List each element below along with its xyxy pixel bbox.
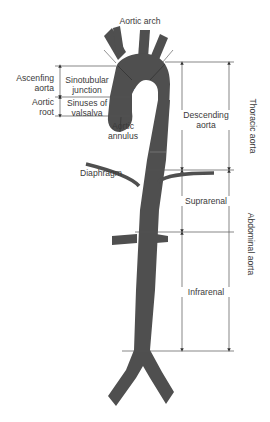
- label-sinotubular-junction: Sinotubular junction: [62, 75, 112, 95]
- label-abdominal-aorta: Abdominal aorta: [246, 212, 256, 276]
- label-descending-aorta: Descending aorta: [180, 110, 232, 130]
- label-root-line2: root: [0, 107, 54, 117]
- aorta-diagram: [0, 0, 270, 422]
- label-sinuses-line1: Sinuses of: [62, 98, 112, 108]
- label-ascending-line1: Ascenfing: [0, 73, 54, 83]
- label-ascending-aorta: Ascenfing aorta: [0, 73, 54, 93]
- renal-artery-right: [156, 234, 168, 243]
- label-aortic-annulus: Aortic annulus: [98, 121, 148, 141]
- label-sinotubular-line2: junction: [62, 85, 112, 95]
- label-thoracic-aorta: Thoracic aorta: [248, 96, 258, 156]
- label-diaphragm: Diaphragm: [80, 168, 122, 178]
- label-aortic-arch: Aortic arch: [110, 16, 170, 26]
- label-annulus-line1: Aortic: [98, 121, 148, 131]
- iliac-bifurcation: [108, 350, 174, 406]
- renal-artery-left: [112, 234, 137, 245]
- label-suprarenal: Suprarenal: [180, 196, 232, 206]
- label-sinuses-line2: valsalva: [62, 108, 112, 118]
- label-sinuses-of-valsalva: Sinuses of valsalva: [62, 98, 112, 118]
- label-sinotubular-line1: Sinotubular: [62, 75, 112, 85]
- label-descending-line1: Descending: [180, 110, 232, 120]
- label-rpa: rPA: [134, 86, 148, 96]
- label-annulus-line2: annulus: [98, 131, 148, 141]
- label-aortic-root: Aortic root: [0, 97, 54, 117]
- label-root-line1: Aortic: [0, 97, 54, 107]
- label-ascending-line2: aorta: [0, 83, 54, 93]
- label-descending-line2: aorta: [180, 120, 232, 130]
- label-infrarenal: Infrarenal: [180, 287, 232, 297]
